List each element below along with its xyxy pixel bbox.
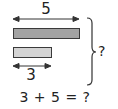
- curly-brace-icon: [87, 18, 96, 85]
- bottom-length-label: 3: [23, 68, 39, 83]
- equation-text: 3 + 5 = ?: [0, 89, 110, 105]
- total-unknown-label: ?: [98, 44, 105, 58]
- long-bar: [13, 28, 80, 39]
- short-bar: [13, 47, 52, 58]
- top-length-label: 5: [38, 2, 54, 17]
